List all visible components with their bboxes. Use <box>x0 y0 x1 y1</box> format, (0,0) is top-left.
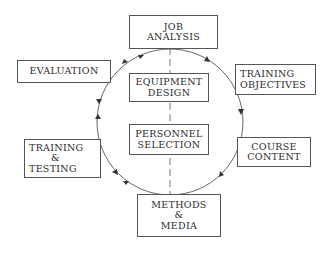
node-label: CONTENT <box>238 152 310 163</box>
node-methods-media: METHODS & MEDIA <box>137 194 221 237</box>
arrow-icon <box>138 55 144 59</box>
node-label: TRAINING <box>240 69 315 80</box>
arrow-icon <box>238 109 244 115</box>
node-evaluation: EVALUATION <box>17 60 111 83</box>
node-label: ANALYSIS <box>130 32 217 43</box>
node-label: SELECTION <box>130 140 208 151</box>
node-label: PERSONNEL <box>130 129 208 140</box>
node-label: TESTING <box>29 164 100 175</box>
node-label: DESIGN <box>130 88 208 99</box>
node-equipment-design: EQUIPMENT DESIGN <box>129 73 209 102</box>
node-course-content: COURSE CONTENT <box>237 137 311 167</box>
node-training-objectives: TRAINING OBJECTIVES <box>235 64 316 95</box>
node-job-analysis: JOB ANALYSIS <box>129 15 218 49</box>
arrow-icon <box>123 181 129 185</box>
arrow-icon <box>96 99 102 104</box>
node-label: EVALUATION <box>18 66 110 77</box>
node-personnel-selection: PERSONNEL SELECTION <box>129 124 209 155</box>
node-label: EQUIPMENT <box>130 77 208 88</box>
node-training-testing: TRAINING & TESTING <box>24 139 101 178</box>
node-label: TRAINING <box>29 143 100 154</box>
arrow-icon <box>204 56 210 62</box>
training-cycle-diagram: JOB ANALYSIS EVALUATION TRAINING OBJECTI… <box>0 0 331 253</box>
arrow-icon <box>95 114 101 119</box>
node-label: MEDIA <box>138 221 220 232</box>
node-label: OBJECTIVES <box>240 80 315 91</box>
